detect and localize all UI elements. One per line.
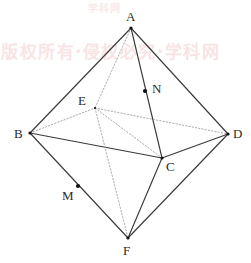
vertex-dot-e bbox=[94, 107, 96, 109]
vertex-label-a: A bbox=[126, 10, 135, 23]
vertex-label-d: D bbox=[233, 127, 242, 140]
point-label-n: N bbox=[152, 82, 161, 95]
edge-be bbox=[30, 108, 95, 133]
edge-cf bbox=[128, 158, 162, 238]
marked-point-m bbox=[76, 184, 80, 188]
vertex-dot-a bbox=[129, 26, 132, 29]
marked-point-n bbox=[143, 89, 147, 93]
edge-ef bbox=[95, 108, 128, 238]
vertex-dot-c bbox=[160, 156, 163, 159]
vertex-label-c: C bbox=[166, 160, 175, 173]
points-group bbox=[28, 26, 229, 239]
vertex-label-b: B bbox=[14, 127, 23, 140]
vertex-label-e: E bbox=[78, 94, 86, 107]
geometry-figure: 学科网 版权所有·侵权必究·学科网 ABCDEFMN bbox=[0, 0, 251, 263]
point-label-m: M bbox=[62, 189, 74, 202]
edge-ad bbox=[131, 28, 228, 134]
vertex-dot-d bbox=[226, 132, 229, 135]
vertex-dot-f bbox=[126, 236, 129, 239]
vertex-label-f: F bbox=[123, 244, 130, 257]
edges-group bbox=[30, 28, 228, 238]
edge-cd bbox=[162, 134, 228, 158]
edge-df bbox=[128, 134, 228, 238]
vertex-dot-b bbox=[28, 131, 31, 134]
edge-ab bbox=[30, 28, 131, 133]
edge-ae bbox=[95, 28, 131, 108]
octahedron-svg bbox=[0, 0, 251, 263]
